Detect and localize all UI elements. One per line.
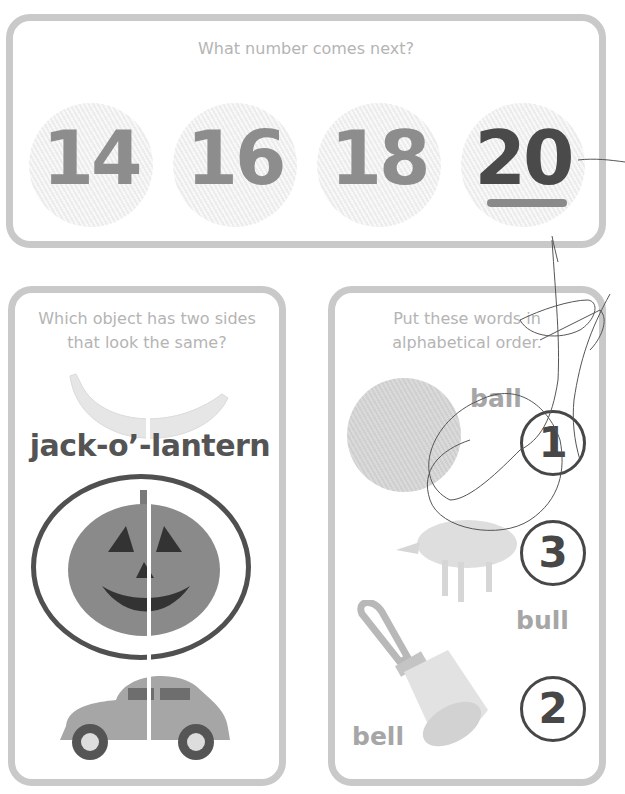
ball-image[interactable] bbox=[347, 378, 461, 492]
number-sequence-card: What number comes next? 14 16 18 20 bbox=[6, 14, 606, 248]
alphabet-prompt-line1: Put these words in bbox=[335, 307, 599, 330]
symmetry-prompt-line1: Which object has two sides bbox=[15, 307, 279, 330]
alphabet-prompt-line2: alphabetical order. bbox=[335, 331, 599, 354]
symmetry-prompt-line2: that look the same? bbox=[15, 331, 279, 354]
number-badge-1: 14 bbox=[29, 103, 153, 227]
order-circle-bull[interactable]: 3 bbox=[520, 520, 586, 586]
answer-number-badge[interactable]: 20 bbox=[461, 103, 585, 227]
sequence-number: 14 bbox=[29, 115, 153, 201]
sequence-number: 16 bbox=[173, 115, 297, 201]
jack-o-lantern-image[interactable] bbox=[66, 490, 222, 636]
sequence-prompt: What number comes next? bbox=[13, 37, 599, 60]
answer-label-jack-o-lantern: jack-o’-lantern bbox=[28, 428, 272, 463]
order-circle-ball[interactable]: 1 bbox=[520, 410, 586, 476]
sequence-number: 18 bbox=[317, 115, 441, 201]
order-circle-bell[interactable]: 2 bbox=[520, 676, 586, 742]
word-bell: bell bbox=[352, 722, 404, 751]
number-badge-2: 16 bbox=[173, 103, 297, 227]
answer-number: 20 bbox=[461, 115, 585, 201]
bull-image[interactable] bbox=[392, 508, 522, 608]
word-ball: ball bbox=[470, 384, 522, 413]
word-bull: bull bbox=[516, 606, 569, 635]
number-badge-3: 18 bbox=[317, 103, 441, 227]
car-image[interactable] bbox=[46, 666, 242, 764]
symmetry-line bbox=[147, 488, 151, 750]
